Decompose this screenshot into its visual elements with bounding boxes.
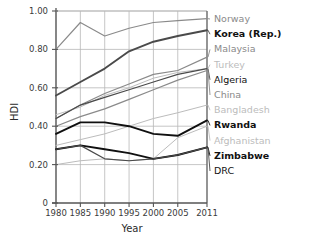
- legend-leader-line: [208, 105, 210, 110]
- y-tick-label: 0.80: [29, 44, 48, 54]
- data-series: [56, 19, 207, 165]
- x-axis-ticks: 1980198519901995200020052011: [45, 203, 218, 218]
- grid-lines: [56, 11, 207, 203]
- y-tick-label: 0.20: [29, 160, 48, 170]
- y-axis-ticks: 00.200.400.600.801.00: [29, 6, 58, 208]
- legend-label-korea-rep: Korea (Rep.): [214, 28, 281, 39]
- x-tick-label: 1990: [94, 208, 116, 218]
- x-tick-label: 2005: [167, 208, 189, 218]
- legend-label-turkey: Turkey: [213, 59, 245, 70]
- axis-frame: [52, 8, 207, 203]
- legend-label-drc: DRC: [214, 165, 234, 176]
- legend-label-malaysia: Malaysia: [214, 43, 256, 54]
- x-tick-label: 1985: [70, 208, 92, 218]
- y-tick-label: 0.40: [29, 121, 48, 131]
- legend-leader-line: [208, 65, 210, 69]
- y-axis-title: HDI: [9, 103, 20, 121]
- legend-label-afghanistan: Afghanistan: [214, 135, 271, 146]
- x-tick-label: 2000: [143, 208, 165, 218]
- x-tick-label: 1995: [118, 208, 140, 218]
- legend-leader-line: [208, 49, 210, 57]
- legend: NorwayKorea (Rep.)MalaysiaTurkeyAlgeriaC…: [213, 13, 281, 176]
- legend-label-rwanda: Rwanda: [214, 119, 256, 130]
- y-tick-label: 1.00: [29, 6, 48, 16]
- legend-label-bangladesh: Bangladesh: [214, 104, 270, 115]
- series-line-china: [56, 71, 207, 127]
- series-line-korea-rep: [56, 30, 207, 95]
- legend-label-algeria: Algeria: [214, 74, 247, 85]
- chart-figure: 00.200.400.600.801.00 198019851990199520…: [0, 0, 312, 238]
- series-line-turkey: [56, 69, 207, 115]
- series-line-zimbabwe: [56, 145, 207, 158]
- x-axis-title: Year: [120, 223, 143, 234]
- legend-leader-lines: [208, 19, 210, 171]
- y-tick-label: 0: [43, 198, 48, 208]
- legend-label-norway: Norway: [214, 13, 250, 24]
- legend-label-china: China: [214, 89, 241, 100]
- series-line-rwanda: [56, 120, 207, 135]
- x-tick-label: 2011: [196, 208, 218, 218]
- legend-leader-line: [208, 30, 210, 34]
- legend-leader-line: [208, 126, 210, 140]
- y-tick-label: 0.60: [29, 83, 48, 93]
- legend-leader-line: [208, 120, 210, 125]
- legend-label-zimbabwe: Zimbabwe: [214, 150, 269, 161]
- x-tick-label: 1980: [45, 208, 67, 218]
- hdi-line-chart: 00.200.400.600.801.00 198019851990199520…: [0, 0, 312, 238]
- series-line-bangladesh: [56, 105, 207, 145]
